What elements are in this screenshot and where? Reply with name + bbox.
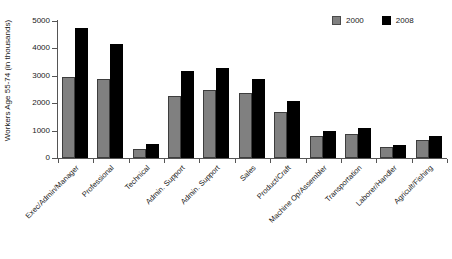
x-tick-mark: [412, 159, 413, 163]
bar-2008-technical: [146, 144, 159, 158]
bar-2008-laborer-handler: [393, 145, 406, 158]
y-tick-mark: [52, 158, 57, 159]
bar-2000-professional: [97, 79, 110, 158]
bar-2008-product-craft: [287, 101, 300, 158]
y-tick-mark: [52, 103, 57, 104]
bar-2000-agricult-fishing: [416, 140, 429, 158]
bar-2008-agricult-fishing: [429, 136, 442, 158]
y-axis-title-text: Workers Age 55-74 (in thousands): [4, 19, 13, 140]
bar-2008-admin-support: [181, 71, 194, 158]
x-tick-mark: [447, 159, 448, 163]
x-tick-mark: [129, 159, 130, 163]
bar-2000-exec-admin-manager: [62, 77, 75, 158]
bar-2008-sales: [252, 79, 265, 158]
x-axis-line: [57, 158, 447, 159]
bar-2000-laborer-handler: [380, 147, 393, 158]
bar-2000-transportation: [345, 134, 358, 158]
x-tick-mark: [306, 159, 307, 163]
y-tick-label: 3000: [16, 72, 50, 80]
bar-2000-admin-support: [203, 90, 216, 159]
plot-area: [58, 21, 447, 158]
y-tick-mark: [52, 131, 57, 132]
bar-2008-machine-op-assembler: [323, 131, 336, 158]
y-tick-mark: [52, 76, 57, 77]
x-tick-mark: [164, 159, 165, 163]
y-tick-label: 0: [16, 154, 50, 162]
x-tick-mark: [93, 159, 94, 163]
bar-2000-product-craft: [274, 112, 287, 158]
bar-2008-transportation: [358, 128, 371, 158]
y-tick-label: 5000: [16, 17, 50, 25]
bar-2008-professional: [110, 44, 123, 158]
y-tick-mark: [52, 48, 57, 49]
bar-2000-machine-op-assembler: [310, 136, 323, 158]
bar-2008-exec-admin-manager: [75, 28, 88, 158]
bar-2000-admin-support: [168, 96, 181, 158]
y-tick-label: 4000: [16, 44, 50, 52]
y-tick-mark: [52, 21, 57, 22]
bar-2000-sales: [239, 93, 252, 158]
x-tick-mark: [270, 159, 271, 163]
bar-2008-admin-support: [216, 68, 229, 158]
y-tick-label: 1000: [16, 127, 50, 135]
x-tick-mark: [235, 159, 236, 163]
x-tick-mark: [341, 159, 342, 163]
bar-chart: 2000 2008 Workers Age 55-74 (in thousand…: [0, 0, 452, 259]
y-tick-label: 2000: [16, 99, 50, 107]
bar-2000-technical: [133, 149, 146, 158]
x-tick-mark: [58, 159, 59, 163]
y-axis-title: Workers Age 55-74 (in thousands): [0, 0, 16, 160]
x-tick-mark: [199, 159, 200, 163]
x-tick-mark: [376, 159, 377, 163]
